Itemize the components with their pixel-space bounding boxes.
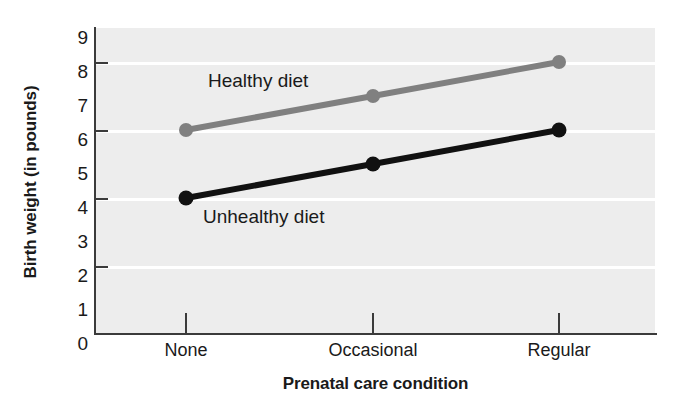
x-tick-label-regular: Regular	[479, 340, 639, 361]
y-tick-label-2: 2	[64, 266, 88, 285]
y-tick-label-3: 3	[64, 232, 88, 251]
y-tick-label-0: 0	[64, 334, 88, 353]
y-tick-label-6: 6	[64, 130, 88, 149]
gridline-2	[96, 266, 655, 269]
x-tick-label-occasional: Occasional	[293, 340, 453, 361]
y-tick-label-9: 9	[64, 28, 88, 47]
y-tick-label-1: 1	[64, 300, 88, 319]
y-tick-label-8: 8	[64, 62, 88, 81]
series-label-unhealthy-diet: Unhealthy diet	[203, 206, 324, 228]
y-tick-label-7: 7	[64, 96, 88, 115]
gridline-6	[96, 130, 655, 133]
y-tickmark-2	[96, 266, 108, 268]
x-axis-title: Prenatal care condition	[96, 374, 655, 394]
gridline-4	[96, 198, 655, 201]
y-tick-label-4: 4	[64, 198, 88, 217]
y-tickmark-4	[96, 198, 108, 200]
y-tick-label-5: 5	[64, 164, 88, 183]
x-tickmark-none	[185, 313, 187, 334]
plot-area	[96, 28, 655, 333]
x-tick-label-none: None	[106, 340, 266, 361]
line-chart-figure: 9 8 7 6 5 4 3 2 1 0 None Occasional Regu…	[0, 0, 683, 407]
y-tickmark-6	[96, 130, 108, 132]
series-label-healthy-diet: Healthy diet	[208, 70, 308, 92]
gridline-8	[96, 62, 655, 65]
x-tickmark-regular	[558, 313, 560, 334]
y-axis-line	[94, 27, 96, 335]
x-tickmark-occasional	[372, 313, 374, 334]
y-tickmark-8	[96, 62, 108, 64]
y-axis-title: Birth weight (in pounds)	[21, 47, 41, 317]
x-axis-line	[94, 333, 657, 335]
